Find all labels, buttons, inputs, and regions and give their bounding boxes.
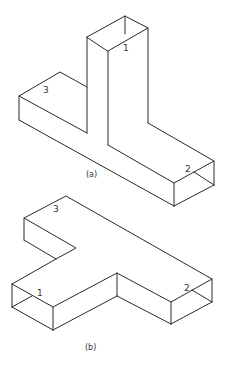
port-3-label-b: 3 bbox=[53, 204, 59, 214]
port-2-bottom-edge-a bbox=[174, 185, 214, 206]
branch-3-bottom-edge-b bbox=[24, 240, 56, 259]
branch-3-top-a bbox=[19, 72, 87, 133]
port-3-label-a: 3 bbox=[43, 85, 49, 95]
left-bottom-edge-b bbox=[53, 296, 117, 330]
port-1-label-a: 1 bbox=[123, 43, 129, 53]
tee-diagram-b: 3 1 2 (b) bbox=[12, 196, 212, 352]
caption-b: (b) bbox=[85, 343, 96, 352]
port-1-bottom-edge-b bbox=[12, 307, 53, 330]
caption-a: (a) bbox=[86, 170, 97, 179]
main-duct-bottom-edge-a bbox=[19, 120, 174, 206]
diagram-canvas: 1 3 2 (a) 3 1 2 (b) bbox=[0, 0, 228, 366]
tee-diagram-a: 1 3 2 (a) bbox=[19, 16, 214, 206]
port-1-opening-a bbox=[87, 16, 148, 51]
port-2-hidden-edge-a bbox=[194, 172, 214, 185]
right-bottom-edge-b bbox=[117, 296, 171, 324]
port-2-label-a: 2 bbox=[185, 164, 191, 174]
port-2-bottom-edge-b bbox=[171, 302, 212, 324]
branch-2-top-a bbox=[108, 123, 214, 183]
port-1-hidden-edge-b bbox=[12, 296, 32, 307]
port-2-hidden-edge-b bbox=[192, 290, 212, 302]
port-1-label-b: 1 bbox=[37, 288, 43, 298]
port-2-label-b: 2 bbox=[184, 283, 190, 293]
